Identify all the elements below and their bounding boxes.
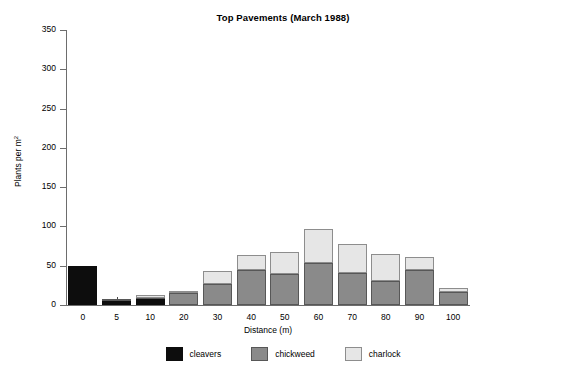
y-tick-label-text: 0 [4, 300, 56, 309]
y-axis-title-exponent: 2 [13, 136, 19, 139]
bar-segment-chickweed[interactable] [439, 292, 468, 305]
bar-segment-charlock[interactable] [237, 255, 266, 271]
y-tick-label-text: 300 [4, 64, 56, 73]
x-tick-label: 100 [433, 312, 473, 322]
bar-segment-cleavers[interactable] [136, 299, 165, 305]
y-tick-label-text: 250 [4, 104, 56, 113]
bar-segment-cleavers[interactable] [102, 301, 131, 305]
bar-stack[interactable] [169, 30, 198, 305]
y-tick-label: 0 [0, 300, 56, 310]
y-tick-label: 100 [0, 221, 56, 231]
y-tick-label-text: 150 [4, 182, 56, 191]
bar-segment-cleavers[interactable] [68, 266, 97, 305]
bar-stack[interactable] [237, 30, 266, 305]
bar-segment-charlock[interactable] [405, 257, 434, 270]
bar-stack[interactable] [102, 30, 131, 305]
bar-stack[interactable] [203, 30, 232, 305]
bar-segment-charlock[interactable] [169, 291, 198, 293]
y-tick-label: 300 [0, 64, 56, 74]
bar-segment-charlock[interactable] [203, 271, 232, 284]
bar-stack[interactable] [338, 30, 367, 305]
legend-item-chickweed[interactable]: chickweed [251, 347, 315, 361]
y-tick-label-text: 50 [4, 261, 56, 270]
chart-title: Top Pavements (March 1988) [0, 12, 566, 23]
bar-segment-charlock[interactable] [304, 229, 333, 264]
bar-stack[interactable] [371, 30, 400, 305]
legend-label-chickweed: chickweed [275, 350, 315, 359]
legend-swatch-charlock [345, 347, 362, 361]
x-axis-title: Distance (m) [66, 325, 470, 335]
chart-legend: cleaverschickweedcharlock [0, 347, 566, 361]
bar-chart: Top Pavements (March 1988) Plants per m2… [0, 0, 566, 373]
legend-swatch-cleavers [166, 347, 183, 361]
bar-stack[interactable] [68, 30, 97, 305]
bar-segment-chickweed[interactable] [405, 270, 434, 305]
bar-segment-charlock[interactable] [136, 295, 165, 298]
bar-segment-charlock[interactable] [371, 254, 400, 281]
legend-swatch-chickweed [251, 347, 268, 361]
legend-label-cleavers: cleavers [190, 350, 222, 359]
bar-segment-chickweed[interactable] [203, 284, 232, 305]
bar-stack[interactable] [136, 30, 165, 305]
y-tick-label-text: 200 [4, 143, 56, 152]
bar-segment-charlock[interactable] [439, 288, 468, 292]
plot-area [66, 30, 470, 305]
legend-item-cleavers[interactable]: cleavers [166, 347, 222, 361]
bar-segment-chickweed[interactable] [169, 293, 198, 305]
y-tick-label: 250 [0, 104, 56, 114]
legend-item-charlock[interactable]: charlock [345, 347, 401, 361]
y-tick-label: 350 [0, 25, 56, 35]
bar-stack[interactable] [439, 30, 468, 305]
y-tick-label-text: 350 [4, 25, 56, 34]
bar-stack[interactable] [304, 30, 333, 305]
bar-stack[interactable] [270, 30, 299, 305]
y-axis-title: Plants per m2 [13, 101, 24, 221]
y-tick-label: 50 [0, 261, 56, 271]
y-tick-mark [60, 305, 67, 306]
bar-segment-chickweed[interactable] [371, 281, 400, 305]
bar-segment-charlock[interactable] [338, 244, 367, 273]
y-tick-label: 150 [0, 182, 56, 192]
x-axis-line [66, 305, 470, 306]
y-tick-label-text: 100 [4, 221, 56, 230]
legend-label-charlock: charlock [369, 350, 401, 359]
bar-segment-charlock[interactable] [270, 252, 299, 274]
bar-stack[interactable] [405, 30, 434, 305]
bar-segment-chickweed[interactable] [237, 270, 266, 305]
bar-segment-chickweed[interactable] [270, 274, 299, 305]
bar-segment-chickweed[interactable] [102, 299, 131, 301]
bar-segment-chickweed[interactable] [304, 263, 333, 305]
bar-segment-chickweed[interactable] [338, 273, 367, 305]
y-tick-label: 200 [0, 143, 56, 153]
